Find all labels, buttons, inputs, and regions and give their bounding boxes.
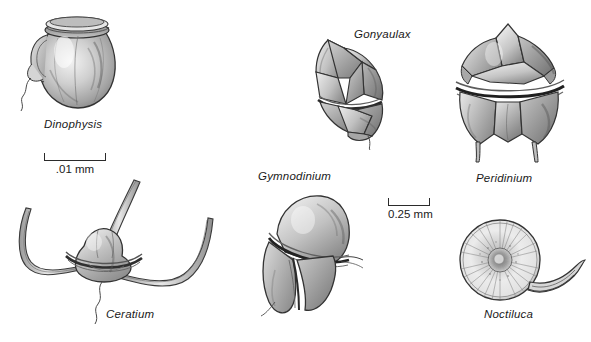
scale-bar-gymnodinium: 0.25 mm xyxy=(388,198,430,220)
ceratium-label: Ceratium xyxy=(106,308,154,320)
gymnodinium-illustration xyxy=(255,186,370,318)
dinophysis-label: Dinophysis xyxy=(44,118,102,130)
ceratium-illustration xyxy=(2,178,234,328)
scale-bar-dinophysis: .01 mm xyxy=(44,153,106,175)
peridinium-illustration xyxy=(446,18,576,168)
scale-bar-caption: .01 mm xyxy=(44,163,106,175)
peridinium-label: Peridinium xyxy=(476,172,532,184)
dinoflagellate-figure-plate: Dinophysis .01 mm xyxy=(0,0,591,342)
dinophysis-illustration xyxy=(14,4,136,116)
scale-bar-line xyxy=(44,153,106,161)
scale-bar-caption: 0.25 mm xyxy=(388,208,430,220)
gonyaulax-illustration xyxy=(298,32,406,150)
gymnodinium-label: Gymnodinium xyxy=(258,170,331,182)
noctiluca-label: Noctiluca xyxy=(484,308,533,320)
gonyaulax-label: Gonyaulax xyxy=(354,28,411,40)
scale-bar-line xyxy=(388,198,430,206)
noctiluca-illustration xyxy=(452,216,586,306)
